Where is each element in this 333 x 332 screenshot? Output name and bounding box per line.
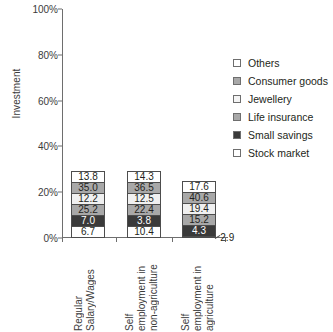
segment-value: 15.2 [189, 215, 208, 225]
x-category-line: Self [180, 243, 191, 331]
legend-swatch-consumer-goods-icon [233, 77, 241, 85]
segment-value-callout: 2.9 [215, 232, 234, 243]
segment-value: 6.7 [81, 227, 95, 237]
legend-item-consumer-goods[interactable]: Consumer goods [233, 72, 328, 90]
x-category-line: Self [124, 243, 135, 331]
x-category-line: Regular [73, 243, 84, 331]
legend-item-life-insurance[interactable]: Life insurance [233, 108, 328, 126]
segment-value: 12.2 [78, 194, 97, 204]
legend-item-jewellery[interactable]: Jewellery [233, 90, 328, 108]
x-category-line: Salary/Wages [85, 243, 96, 331]
legend-label: Others [248, 57, 280, 69]
bar-segment-others[interactable]: 13.8 [71, 171, 105, 182]
segment-value: 36.5 [134, 183, 153, 193]
y-tick-label-40: 40% [38, 141, 58, 152]
bar-segment-stock-market[interactable]: 2.9 [182, 236, 216, 238]
plot-area: 0% 20% 40% 60% 80% 100% 6.7 7.0 25.2 12.… [62, 9, 226, 238]
legend-label: Consumer goods [248, 75, 328, 87]
y-tick-label-20: 20% [38, 187, 58, 198]
bar-segment-consumer-goods[interactable]: 40.6 [182, 192, 216, 203]
y-axis-line [62, 9, 63, 238]
segment-value: 22.4 [134, 205, 153, 215]
bar-segment-small-savings[interactable]: 4.3 [182, 225, 216, 236]
y-tick-mark-80 [58, 54, 62, 55]
y-tick-label-80: 80% [38, 49, 58, 60]
segment-value: 17.6 [189, 182, 208, 192]
segment-value: 19.4 [189, 204, 208, 214]
bar-segment-life-insurance[interactable]: 25.2 [71, 204, 105, 215]
segment-value: 12.5 [134, 194, 153, 204]
x-category-line: non-agriculture [148, 243, 159, 331]
legend-label: Small savings [248, 129, 313, 141]
bar-segment-others[interactable]: 14.3 [127, 171, 161, 182]
x-category-line: employment in [136, 243, 147, 331]
y-tick-label-100: 100% [32, 4, 58, 15]
bar-segment-life-insurance[interactable]: 22.4 [127, 204, 161, 215]
bar-self-employment-non-agriculture[interactable]: 10.4 3.8 22.4 12.5 36.5 14.3 [127, 171, 161, 238]
segment-value: 3.8 [137, 216, 151, 226]
segment-value: 4.3 [192, 226, 206, 236]
legend-swatch-life-insurance-icon [233, 113, 241, 121]
chart-legend: Others Consumer goods Jewellery Life ins… [233, 54, 328, 162]
segment-value: 7.0 [81, 216, 95, 226]
bar-segment-others[interactable]: 17.6 [182, 181, 216, 192]
bar-segment-small-savings[interactable]: 3.8 [127, 215, 161, 226]
y-tick-mark-100 [58, 9, 62, 10]
legend-swatch-small-savings-icon [233, 131, 241, 139]
x-category-label-self-employment-non-agriculture: Self employment in non-agriculture [124, 243, 159, 331]
y-tick-label-0: 0% [44, 233, 58, 244]
segment-value: 35.0 [78, 183, 97, 193]
y-tick-mark-40 [58, 146, 62, 147]
bar-segment-stock-market[interactable]: 6.7 [71, 226, 105, 238]
bar-segment-jewellery[interactable]: 19.4 [182, 203, 216, 214]
y-tick-label-60: 60% [38, 95, 58, 106]
bar-regular-salary-wages[interactable]: 6.7 7.0 25.2 12.2 35.0 13.8 [71, 171, 105, 238]
bar-segment-consumer-goods[interactable]: 36.5 [127, 182, 161, 193]
bar-segment-life-insurance[interactable]: 15.2 [182, 214, 216, 225]
legend-swatch-stock-market-icon [233, 149, 241, 157]
y-axis-title: Investment [11, 34, 22, 154]
y-tick-mark-60 [58, 100, 62, 101]
legend-swatch-others-icon [233, 59, 241, 67]
bar-segment-small-savings[interactable]: 7.0 [71, 215, 105, 226]
x-tick-mark-1 [116, 238, 117, 242]
bar-segment-stock-market[interactable]: 10.4 [127, 226, 161, 238]
legend-label: Stock market [248, 147, 309, 159]
legend-label: Life insurance [248, 111, 313, 123]
bar-segment-consumer-goods[interactable]: 35.0 [71, 182, 105, 193]
x-category-line: employment in [192, 243, 203, 331]
legend-swatch-jewellery-icon [233, 95, 241, 103]
x-tick-mark-0 [62, 238, 63, 242]
bar-segment-jewellery[interactable]: 12.5 [127, 193, 161, 204]
legend-item-small-savings[interactable]: Small savings [233, 126, 328, 144]
x-category-label-regular-salary-wages: Regular Salary/Wages [73, 243, 96, 331]
segment-value: 13.8 [78, 172, 97, 182]
legend-item-others[interactable]: Others [233, 54, 328, 72]
segment-value: 14.3 [134, 172, 153, 182]
bar-self-employment-agriculture[interactable]: 2.9 4.3 15.2 19.4 40.6 17.6 [182, 181, 216, 238]
legend-label: Jewellery [248, 93, 292, 105]
segment-value: 25.2 [78, 205, 97, 215]
segment-value: 40.6 [189, 193, 208, 203]
x-tick-mark-2 [172, 238, 173, 242]
legend-item-stock-market[interactable]: Stock market [233, 144, 328, 162]
segment-value: 10.4 [134, 227, 153, 237]
x-category-line: agriculture [204, 243, 215, 331]
y-tick-mark-20 [58, 192, 62, 193]
x-category-label-self-employment-agriculture: Self employment in agriculture [180, 243, 215, 331]
bar-segment-jewellery[interactable]: 12.2 [71, 193, 105, 204]
